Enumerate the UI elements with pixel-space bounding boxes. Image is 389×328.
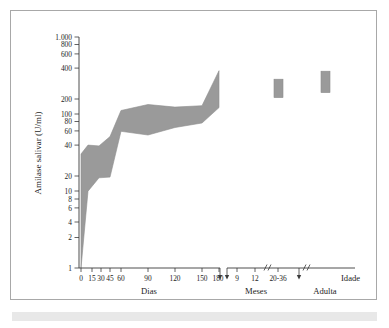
ytick-label-6: 6 bbox=[68, 204, 72, 213]
ytick-label-800: 800 bbox=[61, 40, 72, 49]
ytick-label-8: 8 bbox=[68, 195, 72, 204]
ytick-label-400: 400 bbox=[61, 64, 72, 73]
ytick-label-40: 40 bbox=[65, 141, 73, 150]
y-axis-title: Amilase salivar (U/ml) bbox=[33, 112, 43, 195]
xtick-label-20-36: 20-36 bbox=[269, 274, 287, 283]
axis-group-label-adulta: Adulta bbox=[313, 286, 337, 296]
xtick-label-60: 60 bbox=[117, 274, 125, 283]
x-axis-ticks-dias bbox=[81, 268, 219, 272]
y-axis-ticks bbox=[75, 37, 80, 268]
xtick-label-15: 15 bbox=[88, 274, 96, 283]
band-polygon bbox=[81, 71, 219, 268]
axis-group-label-dias: Dias bbox=[141, 286, 157, 296]
xtick-label-120: 120 bbox=[169, 274, 180, 283]
figure-frame: 1.000 800 600 400 200 100 80 60 40 20 10… bbox=[10, 10, 377, 300]
ytick-label-20: 20 bbox=[65, 172, 73, 181]
amylase-range-band bbox=[81, 71, 219, 268]
xtick-label-30: 30 bbox=[97, 274, 105, 283]
xtick-label-45: 45 bbox=[106, 274, 114, 283]
ytick-label-4: 4 bbox=[68, 218, 72, 227]
ytick-label-80: 80 bbox=[65, 117, 73, 126]
axis-group-label-meses: Meses bbox=[245, 286, 268, 296]
axis-break-glyph-meses bbox=[264, 265, 271, 271]
chart-area: 1.000 800 600 400 200 100 80 60 40 20 10… bbox=[11, 11, 378, 301]
range-rectangles bbox=[274, 71, 330, 97]
x-axis-ticks-meses bbox=[237, 268, 278, 272]
amylase-chart-svg: 1.000 800 600 400 200 100 80 60 40 20 10… bbox=[11, 11, 378, 301]
range-rect-20-36-meses bbox=[274, 79, 283, 97]
xtick-label-150: 150 bbox=[196, 274, 207, 283]
ytick-label-1: 1 bbox=[68, 264, 72, 273]
ytick-label-60: 60 bbox=[65, 127, 73, 136]
xtick-label-12: 12 bbox=[251, 274, 259, 283]
x-axis-title: Idade bbox=[341, 273, 360, 283]
x-axis-segment-meses: 9 12 20-36 Meses bbox=[227, 265, 299, 297]
xtick-label-90: 90 bbox=[144, 274, 152, 283]
ytick-label-600: 600 bbox=[61, 50, 72, 59]
xtick-label-0: 0 bbox=[79, 274, 83, 283]
bottom-strip bbox=[12, 312, 377, 321]
y-axis: 1.000 800 600 400 200 100 80 60 40 20 10… bbox=[33, 33, 79, 273]
axis-break-meses-adulta bbox=[297, 268, 301, 280]
axis-break-glyph-adulta bbox=[303, 265, 310, 271]
range-rect-adulta bbox=[321, 71, 330, 92]
xtick-label-9: 9 bbox=[235, 274, 239, 283]
x-axis-segment-dias: 0 15 30 45 60 90 120 150 180 Dias bbox=[79, 268, 224, 296]
ytick-label-200: 200 bbox=[61, 95, 72, 104]
ytick-label-2: 2 bbox=[68, 233, 72, 242]
